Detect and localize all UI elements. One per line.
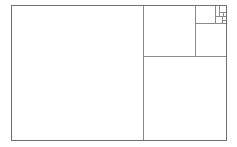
square-6 bbox=[216, 6, 227, 17]
fibonacci-subdivision-diagram bbox=[0, 0, 237, 147]
dividers-group bbox=[144, 6, 227, 141]
square-7 bbox=[216, 17, 223, 24]
square-3 bbox=[144, 6, 196, 57]
square-10 bbox=[220, 13, 224, 17]
square-5 bbox=[196, 6, 216, 24]
square-1 bbox=[12, 6, 144, 141]
square-9 bbox=[220, 6, 227, 13]
outer-rectangle bbox=[12, 6, 227, 141]
square-4 bbox=[196, 24, 227, 57]
squares-group bbox=[12, 6, 227, 141]
square-8 bbox=[223, 17, 227, 21]
square-2 bbox=[144, 57, 227, 141]
diagram-canvas bbox=[0, 0, 237, 147]
